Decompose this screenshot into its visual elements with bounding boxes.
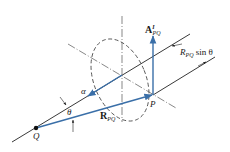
parallel-line (153, 57, 215, 95)
r-pq-vector (36, 95, 152, 128)
label-p: P (149, 99, 156, 109)
label-q: Q (33, 131, 40, 141)
label-r-sin-theta: RPQ sin θ (179, 47, 213, 58)
theta-arrow-top (60, 97, 66, 105)
rotation-circle (80, 30, 160, 129)
label-theta: θ (67, 107, 72, 117)
rotation-diagram: AIPQ RPQ sin θ α θ RPQ P Q (0, 0, 230, 152)
label-a-pq: AIPQ (145, 24, 161, 36)
point-q (34, 126, 38, 130)
label-r-pq: RPQ (100, 110, 116, 122)
label-alpha: α (81, 86, 86, 96)
alpha-vector (88, 75, 122, 96)
